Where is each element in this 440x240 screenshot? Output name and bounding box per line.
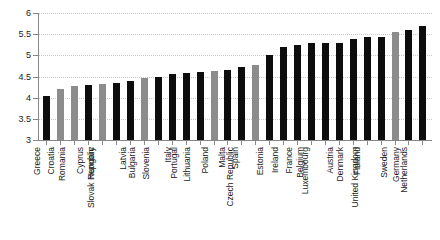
bar: [197, 72, 204, 140]
x-tick-slot: [124, 141, 138, 145]
bar-slot: [207, 13, 221, 140]
x-axis-tick-label: Greece: [33, 147, 42, 175]
x-axis-tick: [102, 141, 103, 145]
x-tick-slot: [207, 141, 221, 145]
x-axis-tick: [408, 141, 409, 145]
bar: [155, 77, 162, 141]
x-tick-slot: [165, 141, 179, 145]
x-tick-slot: [54, 141, 68, 145]
x-axis-tick: [381, 141, 382, 145]
bar-slot: [291, 13, 305, 140]
x-axis-tick: [395, 141, 396, 145]
x-axis-tick-label: Estonia: [256, 147, 265, 175]
bar: [57, 89, 64, 140]
bar-slot: [388, 13, 402, 140]
bar-slot: [54, 13, 68, 140]
x-axis-tick: [353, 141, 354, 145]
x-label-slot: Netherlands: [416, 147, 430, 239]
x-axis-tick-label: Netherlands: [400, 147, 409, 193]
x-tick-slot: [179, 141, 193, 145]
bar: [211, 71, 218, 140]
x-axis-tick: [172, 141, 173, 145]
y-axis-tick-label: 4: [26, 93, 31, 102]
x-axis-tick: [158, 141, 159, 145]
x-axis-tick-label: Lithuania: [183, 147, 192, 182]
x-axis-tick-label: Croatia: [47, 147, 56, 174]
bar-slot: [124, 13, 138, 140]
x-axis-tick: [325, 141, 326, 145]
bar-slot: [151, 13, 165, 140]
x-axis-tick: [214, 141, 215, 145]
x-axis-tick-label: Bulgaria: [129, 147, 138, 178]
bar: [85, 85, 92, 140]
x-axis-tick: [200, 141, 201, 145]
x-tick-slot: [388, 141, 402, 145]
x-axis-tick-label: Ireland: [271, 147, 280, 173]
bar-slot: [263, 13, 277, 140]
bar-slot: [374, 13, 388, 140]
x-axis-tick-label: Denmark: [336, 147, 345, 181]
x-tick-slot: [305, 141, 319, 145]
bar: [392, 32, 399, 140]
bar-slot: [165, 13, 179, 140]
bar-slot: [416, 13, 430, 140]
x-tick-slot: [374, 141, 388, 145]
bar: [43, 96, 50, 140]
x-axis-tick: [241, 141, 242, 145]
x-axis-tick-label: Portugal: [170, 147, 179, 179]
bar-series: [38, 13, 432, 140]
bar: [378, 37, 385, 140]
x-tick-slot: [221, 141, 235, 145]
bar: [252, 65, 259, 140]
bar: [405, 30, 412, 140]
x-axis-tick-label: Sweden: [380, 147, 389, 178]
x-tick-slot: [291, 141, 305, 145]
x-axis-tick: [74, 141, 75, 145]
bar-slot: [235, 13, 249, 140]
bar-slot: [360, 13, 374, 140]
x-axis-tick: [186, 141, 187, 145]
bar: [336, 43, 343, 140]
bar-slot: [137, 13, 151, 140]
bar: [169, 74, 176, 140]
y-axis-tick-label: 4.5: [18, 72, 31, 81]
x-axis-tick: [367, 141, 368, 145]
bar-slot: [332, 13, 346, 140]
bar: [183, 73, 190, 140]
x-tick-slot: [263, 141, 277, 145]
bar: [127, 81, 134, 140]
bar-slot: [96, 13, 110, 140]
x-axis-tick: [311, 141, 312, 145]
bar-slot: [40, 13, 54, 140]
y-axis-tick-label: 5.5: [18, 30, 31, 39]
x-axis-tick-label: Luxembourg: [302, 147, 311, 194]
x-axis-tick: [255, 141, 256, 145]
bar-slot: [318, 13, 332, 140]
x-axis-tick: [60, 141, 61, 145]
x-tick-slot: [96, 141, 110, 145]
bar-slot: [221, 13, 235, 140]
x-tick-slot: [277, 141, 291, 145]
bar-slot: [68, 13, 82, 140]
bar-slot: [110, 13, 124, 140]
x-axis-tick-label: Austria: [326, 147, 335, 173]
bar: [419, 26, 426, 140]
x-tick-slot: [137, 141, 151, 145]
bar-slot: [179, 13, 193, 140]
x-axis-tick-label: Slovak Republic: [86, 147, 95, 208]
x-axis-tick: [130, 141, 131, 145]
y-axis-tick-label: 3: [26, 136, 31, 145]
x-axis-tick-label: Slovenia: [142, 147, 151, 180]
bar-slot: [82, 13, 96, 140]
x-tick-slot: [360, 141, 374, 145]
bar: [308, 43, 315, 140]
x-axis-ticks: [38, 141, 432, 145]
x-axis-tick-label: United Kingdom: [351, 147, 360, 207]
bar: [280, 47, 287, 140]
x-axis-tick: [283, 141, 284, 145]
bar: [238, 67, 245, 140]
x-tick-slot: [332, 141, 346, 145]
bar: [294, 45, 301, 140]
x-axis-tick-label: Poland: [201, 147, 210, 173]
x-tick-slot: [416, 141, 430, 145]
